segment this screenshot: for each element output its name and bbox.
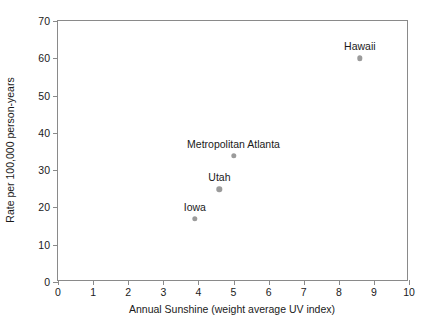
data-point — [192, 216, 197, 221]
plot-area: 010203040506070012345678910IowaUtahMetro… — [57, 20, 408, 281]
x-axis-tick — [58, 280, 59, 285]
data-point-label: Hawaii — [344, 41, 376, 52]
data-point — [217, 186, 222, 191]
x-axis-tick-label: 6 — [266, 287, 272, 298]
x-axis-tick-label: 0 — [55, 287, 61, 298]
x-axis-tick-label: 1 — [90, 287, 96, 298]
x-axis-tick — [339, 280, 340, 285]
y-axis-tick — [53, 245, 58, 246]
y-axis-tick — [53, 96, 58, 97]
y-axis-tick-label: 30 — [38, 165, 50, 176]
x-axis-tick-label: 2 — [125, 287, 131, 298]
data-point-label: Utah — [208, 172, 230, 183]
x-axis-tick — [269, 280, 270, 285]
x-axis-tick-label: 10 — [403, 287, 415, 298]
y-axis-tick — [53, 58, 58, 59]
y-axis-tick-label: 70 — [38, 16, 50, 27]
y-axis-tick-label: 60 — [38, 53, 50, 64]
y-axis-tick-label: 0 — [44, 277, 50, 288]
y-axis-tick-label: 50 — [38, 90, 50, 101]
x-axis-tick — [93, 280, 94, 285]
y-axis-tick — [53, 133, 58, 134]
x-axis-tick — [374, 280, 375, 285]
x-axis-tick-label: 8 — [336, 287, 342, 298]
y-axis-tick — [53, 207, 58, 208]
x-axis-tick-label: 5 — [231, 287, 237, 298]
x-axis-tick-label: 4 — [195, 287, 201, 298]
y-axis-tick-label: 40 — [38, 128, 50, 139]
y-axis-tick-label: 10 — [38, 239, 50, 250]
x-axis-tick — [234, 280, 235, 285]
x-axis-tick — [128, 280, 129, 285]
x-axis-tick-label: 7 — [301, 287, 307, 298]
y-axis-title: Rate per 100,000 person-years — [4, 77, 16, 222]
x-axis-tick — [409, 280, 410, 285]
data-point-label: Iowa — [184, 201, 206, 212]
y-axis-tick-label: 20 — [38, 202, 50, 213]
data-point — [231, 153, 236, 158]
x-axis-tick — [198, 280, 199, 285]
y-axis-tick — [53, 21, 58, 22]
x-axis-tick — [163, 280, 164, 285]
data-point — [357, 56, 362, 61]
x-axis-title: Annual Sunshine (weight average UV index… — [129, 303, 335, 315]
x-axis-tick-label: 9 — [371, 287, 377, 298]
scatter-chart: Rate per 100,000 person-years Annual Sun… — [0, 0, 425, 325]
x-axis-tick-label: 3 — [160, 287, 166, 298]
x-axis-tick — [304, 280, 305, 285]
y-axis-tick — [53, 170, 58, 171]
data-point-label: Metropolitan Atlanta — [187, 138, 280, 149]
